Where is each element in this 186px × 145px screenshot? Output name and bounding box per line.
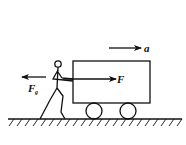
push-force-label: F [116, 73, 125, 85]
acceleration-label: a [144, 42, 150, 54]
cart-wheel-right [120, 103, 136, 119]
acceleration-arrow: a [109, 42, 150, 54]
friction-force-arrow: F g [22, 77, 46, 95]
cart-body [73, 61, 150, 103]
physics-diagram: a [0, 0, 186, 145]
friction-force-subscript: g [34, 89, 38, 95]
push-force-arrow: F [63, 73, 125, 85]
ground [8, 119, 182, 126]
cart-wheel-left [86, 103, 102, 119]
person-figure [40, 61, 73, 119]
